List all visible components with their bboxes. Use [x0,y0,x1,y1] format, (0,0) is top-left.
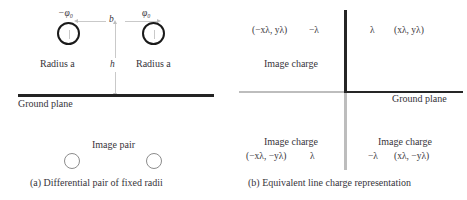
dimension-line-b-left [76,21,106,22]
label-bottom-left-image-charge: Image charge [264,137,318,147]
label-height-h: h [110,60,115,70]
axis-vertical-lower [344,93,346,170]
label-radius-left-text: Radius a [40,58,75,69]
caption-panel-b: (b) Equivalent line charge representatio… [248,178,411,188]
dimension-line-h-upper [115,22,116,58]
center-tick-right [154,30,155,39]
ground-plane-bar-a [18,94,214,97]
label-ground-plane-a: Ground plane [18,99,73,109]
label-bottom-right-charge: −λ [368,152,378,162]
label-ground-plane-b: Ground plane [392,94,447,104]
label-bottom-left-charge: λ [310,152,315,162]
label-bottom-left-coords: (−xλ, −yλ) [246,152,287,162]
label-bottom-right-image-charge: Image charge [378,137,432,147]
label-top-right-coords: (xλ, yλ) [394,26,424,36]
label-radius-right-text: Radius a [136,58,171,69]
label-left-potential: −φ₀ [58,9,73,19]
dimension-arrow-b-left [74,19,78,23]
panel-b: (−xλ, yλ) −λ Image charge λ (xλ, yλ) Gro… [234,0,467,200]
axis-horizontal-left [239,91,345,93]
label-bottom-right-coords: (xλ, −yλ) [394,152,429,162]
image-circle-left [64,153,80,169]
label-top-left-charge: −λ [309,26,319,36]
label-radius-left: Radius a [40,59,75,69]
caption-panel-a: (a) Differential pair of fixed radii [30,178,163,188]
axis-vertical-upper [344,10,347,93]
label-radius-right: Radius a [136,59,171,69]
image-circle-right [146,153,162,169]
label-image-pair: Image pair [92,140,135,150]
figure-root: −φ₀ φ₀ b Radius a Radius a h [0,0,467,200]
panel-a: −φ₀ φ₀ b Radius a Radius a h [0,0,234,200]
label-top-right-charge: λ [370,26,375,36]
dimension-arrow-h-up [113,20,117,24]
label-right-potential: φ₀ [142,9,151,19]
center-tick-left [69,30,70,39]
dimension-line-h-lower [115,72,116,94]
label-mid-left-image-charge: Image charge [264,59,318,69]
label-top-left-coords: (−xλ, yλ) [252,26,287,36]
